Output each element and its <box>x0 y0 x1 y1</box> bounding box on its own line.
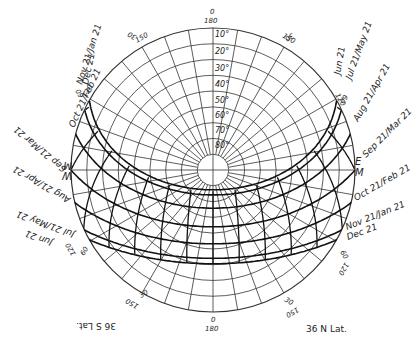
azimuth-spoke <box>188 186 210 310</box>
altitude-label-60: 60° <box>215 111 229 120</box>
altitude-label-40: 40° <box>215 80 229 89</box>
azimuth-spoke <box>221 47 284 156</box>
latitude-label: 36 N Lat. <box>306 324 347 334</box>
azimuth-spoke <box>142 184 205 293</box>
altitude-label-10: 10° <box>215 30 229 39</box>
sun-path-diagram: 10° 20° 30° 40° 50° 60° 70° 80° 0 180 0 … <box>0 0 418 346</box>
azimuth-spoke <box>188 30 210 154</box>
azimuth-left-lower-inner: 120 <box>64 241 78 257</box>
altitude-label-70: 70° <box>215 126 229 135</box>
azimuth-bottom-right-outer: 30 <box>283 296 295 308</box>
azimuth-spoke <box>142 47 205 156</box>
azimuth-right-lower-outer: 60 <box>338 249 350 261</box>
azimuth-spoke <box>221 184 284 293</box>
polar-grid <box>71 28 355 312</box>
azimuth-labels: 0 180 0 180 30 150 30 150 60 120 60 120 … <box>64 8 350 333</box>
azimuth-top-outer: 0 <box>210 8 215 16</box>
altitude-label-30: 30° <box>215 64 229 73</box>
east-label: E <box>355 156 362 167</box>
latitude-label-mirrored: 36 S Lat. <box>76 321 116 331</box>
azimuth-bottom-left-outer: 30 <box>138 288 150 300</box>
azimuth-bottom-left-inner: 150 <box>124 296 140 310</box>
altitude-label-50: 50° <box>215 96 229 105</box>
azimuth-top-right-inner: 150 <box>281 32 297 46</box>
azimuth-bottom-outer: 0 <box>211 316 216 324</box>
azimuth-top-inner: 180 <box>204 17 218 25</box>
azimuth-spoke <box>229 145 353 167</box>
azimuth-top-left-inner: 150 <box>134 31 150 45</box>
date-label-jul-may: Jul 21/May 21 <box>343 20 374 83</box>
azimuth-spoke <box>90 99 199 162</box>
azimuth-spoke <box>227 99 336 162</box>
azimuth-spoke <box>216 186 238 310</box>
azimuth-right-lower-inner: 120 <box>336 261 350 277</box>
altitude-label-80: 80° <box>215 141 229 150</box>
east-marker-label: M <box>355 167 364 178</box>
date-label-sep-mar: Sep 21/Mar 21 <box>360 106 413 159</box>
azimuth-left-lower-outer: 60 <box>79 245 91 257</box>
date-label-aug-apr: Aug 21/Apr 21 <box>351 62 393 124</box>
date-labels-left: Dec 21 Nov 21/Jan 21 Oct 21/Feb 21 Sep 2… <box>11 23 104 249</box>
azimuth-bottom-inner: 180 <box>205 325 219 333</box>
azimuth-spoke <box>73 145 197 167</box>
altitude-label-20: 20° <box>215 47 229 56</box>
azimuth-bottom-right-inner: 150 <box>284 305 300 319</box>
